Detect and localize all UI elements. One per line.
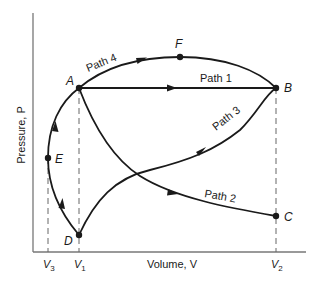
point-b-label: B	[284, 81, 292, 95]
v3-tick-label: V3	[43, 258, 55, 273]
point-d-label: D	[64, 234, 73, 248]
path-1-label: Path 1	[200, 72, 232, 84]
x-axis-label: Volume, V	[147, 258, 198, 270]
point-f	[177, 54, 183, 60]
v1-tick-label: V1	[74, 258, 86, 273]
point-c-label: C	[284, 210, 293, 224]
path-2-curve	[79, 88, 276, 216]
path-4-arrow-top	[136, 58, 147, 65]
path-3-label: Path 3	[210, 104, 242, 133]
path-1-arrow	[167, 85, 177, 92]
point-c	[273, 213, 279, 219]
path-4-curve	[48, 57, 276, 235]
point-a-label: A	[65, 74, 74, 88]
point-e-label: E	[55, 152, 64, 166]
point-e	[45, 155, 51, 161]
point-f-label: F	[175, 37, 183, 51]
path-4-arrow-lower	[59, 198, 66, 209]
path-4-label: Path 4	[84, 51, 118, 74]
pv-diagram: A B C D E F Path 1 Path 2 Path 3 Path 4 …	[0, 0, 325, 287]
point-a	[76, 85, 82, 91]
y-axis-label: Pressure, P	[15, 106, 27, 163]
point-d	[76, 232, 82, 238]
point-b	[273, 85, 279, 91]
v2-tick-label: V2	[271, 258, 283, 273]
path-3-curve	[79, 88, 276, 235]
